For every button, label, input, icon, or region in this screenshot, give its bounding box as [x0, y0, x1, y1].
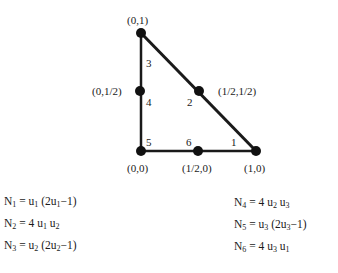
node-6 — [193, 146, 203, 156]
node-2 — [194, 86, 204, 96]
shape-function-N2: N2 = 4 u1 u2 — [4, 218, 60, 230]
node-label-half-half: (1/2,1/2) — [218, 86, 256, 97]
node-label-half-0: (1/2,0) — [182, 163, 212, 174]
node-5 — [136, 146, 146, 156]
node-label-1-0: (1,0) — [244, 163, 265, 174]
shape-function-N4: N4 = 4 u2 u3 — [234, 197, 290, 209]
node-label-0-1: (0,1) — [127, 15, 148, 26]
shape-function-N6: N6 = 4 u3 u1 — [234, 241, 290, 253]
shape-function-N5: N5 = u3 (2u3−1) — [234, 219, 307, 231]
triangle-element-diagram — [0, 0, 338, 273]
node-number-3: 3 — [146, 58, 152, 69]
node-4 — [135, 86, 145, 96]
node-1 — [251, 146, 261, 156]
node-3 — [136, 28, 146, 38]
node-label-0-half: (0,1/2) — [92, 86, 122, 97]
node-number-5: 5 — [146, 137, 152, 148]
node-number-6: 6 — [186, 137, 192, 148]
shape-function-N3: N3 = u2 (2u2−1) — [4, 240, 77, 252]
node-label-0-0: (0,0) — [127, 163, 148, 174]
node-number-2: 2 — [187, 97, 193, 108]
node-number-4: 4 — [146, 97, 152, 108]
shape-function-N1: N1 = u1 (2u1−1) — [4, 196, 77, 208]
node-number-1: 1 — [231, 137, 237, 148]
